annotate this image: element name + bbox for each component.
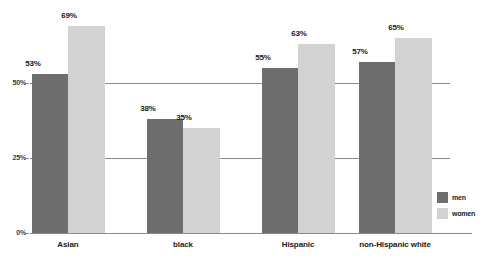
legend-item-men[interactable]: men <box>437 192 475 203</box>
y-tick-label-25: 25% <box>0 154 26 161</box>
bar-value-men-non-hispanic-white: 57% <box>340 47 380 56</box>
bar-value-women-non-hispanic-white: 65% <box>376 23 416 32</box>
bar-value-men-black: 38% <box>128 104 168 113</box>
y-tick-label-0: 0% <box>0 229 26 236</box>
y-tick-mark-50 <box>24 83 29 84</box>
bar-chart: 50% 25% 0% 53% 69% Asian 38% 35% black 5… <box>0 0 482 263</box>
bar-men-black[interactable] <box>147 119 183 233</box>
bar-value-men-asian: 53% <box>13 59 53 68</box>
bar-men-non-hispanic-white[interactable] <box>359 62 395 233</box>
legend-swatch-women-icon <box>437 208 448 219</box>
bar-men-asian[interactable] <box>32 74 68 233</box>
bar-value-women-asian: 69% <box>49 11 89 20</box>
legend-label-men: men <box>452 194 466 201</box>
bar-women-hispanic[interactable] <box>298 44 335 233</box>
legend-item-women[interactable]: women <box>437 208 475 219</box>
chart-legend: men women <box>437 192 475 224</box>
bar-value-women-hispanic: 63% <box>279 29 319 38</box>
category-label-hispanic: Hispanic <box>258 240 338 249</box>
bar-women-non-hispanic-white[interactable] <box>395 38 432 233</box>
bar-value-women-black: 35% <box>164 113 204 122</box>
y-tick-mark-0 <box>24 233 29 234</box>
category-label-asian: Asian <box>28 240 108 249</box>
bar-value-men-hispanic: 55% <box>243 53 283 62</box>
bar-men-hispanic[interactable] <box>262 68 298 233</box>
legend-label-women: women <box>452 210 475 217</box>
category-label-black: black <box>143 240 223 249</box>
legend-swatch-men-icon <box>437 192 448 203</box>
axis-baseline <box>30 233 472 234</box>
y-tick-mark-25 <box>24 158 29 159</box>
bar-women-black[interactable] <box>183 128 220 233</box>
bar-women-asian[interactable] <box>68 26 105 233</box>
y-tick-label-50: 50% <box>0 79 26 86</box>
category-label-non-hispanic-white: non-Hispanic white <box>355 240 435 249</box>
